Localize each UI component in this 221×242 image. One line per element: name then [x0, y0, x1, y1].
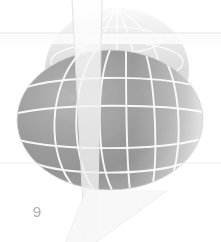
page-number: 9: [28, 200, 46, 224]
figure-page: 9: [0, 0, 221, 242]
projected-plane-shadow: [66, 190, 168, 242]
